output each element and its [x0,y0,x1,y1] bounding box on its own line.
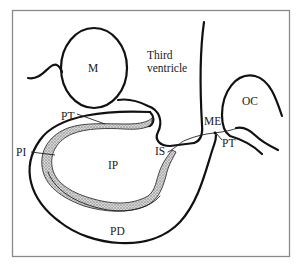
label-third-ventricle-2: ventricle [147,62,187,74]
pituitary-diagram: M Third ventricle OC ME PT PT PI IP IS P… [0,0,300,264]
label-third-ventricle-1: Third [147,49,173,61]
label-is: IS [155,145,165,157]
label-m: M [88,62,98,74]
label-pt-right: PT [222,137,235,149]
label-oc: OC [242,95,258,107]
label-me: ME [204,115,221,127]
mammillary-body [28,28,127,108]
figure-frame [13,11,290,257]
pituitary-outer-capsule [30,112,216,244]
label-ip: IP [108,159,118,171]
label-pt-left: PT [61,110,74,122]
label-pd: PD [110,225,125,237]
label-pi: PI [16,146,26,158]
